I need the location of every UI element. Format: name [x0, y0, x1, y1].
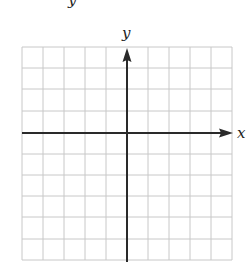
top-fragment-label: y [67, 0, 77, 9]
coordinate-plane: y x y [0, 0, 247, 263]
y-axis-label: y [121, 24, 131, 42]
x-axis-arrow-icon [219, 129, 233, 138]
y-axis-arrow-icon [123, 48, 132, 62]
x-axis-label: x [237, 124, 246, 142]
